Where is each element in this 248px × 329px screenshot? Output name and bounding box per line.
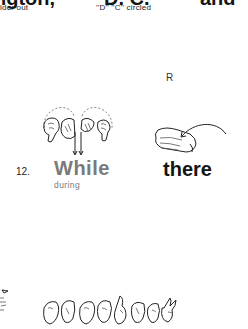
- there-sign-illustration-icon: [154, 120, 234, 158]
- left-edge-sign-fragment-icon: [0, 288, 10, 314]
- subtitle-dc-circled: ''D'' ''C'' circled: [96, 3, 151, 12]
- entry-gloss-during: during: [54, 180, 80, 190]
- section-letter: R: [166, 72, 173, 83]
- while-sign-illustration-icon: [38, 102, 118, 158]
- fingerspelling-hands-icon: [42, 296, 182, 326]
- subtitle-shoulder-out: lder out: [0, 3, 28, 12]
- entry-word-while: While: [54, 157, 110, 180]
- heading-and-fragment: and: [200, 0, 236, 8]
- entry-number: 12.: [16, 166, 30, 177]
- entry-word-there: there: [163, 158, 212, 181]
